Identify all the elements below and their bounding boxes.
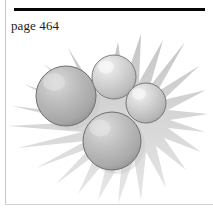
scanned-page: page 464 — [0, 0, 213, 210]
sphere-large-left — [36, 66, 96, 126]
page-bottom-border-line — [5, 204, 213, 205]
header-horizontal-rule — [14, 8, 205, 11]
sphere-cluster-figure — [0, 28, 213, 204]
sphere-bottom-center — [83, 112, 141, 170]
sphere-right — [126, 83, 166, 123]
